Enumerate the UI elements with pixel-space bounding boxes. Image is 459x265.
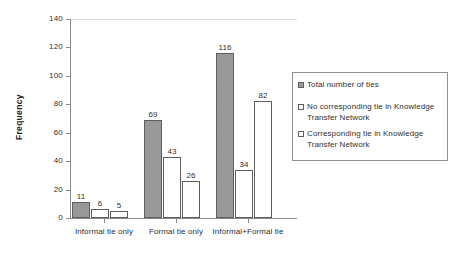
chart-legend: Total number of ties No corresponding ti… — [292, 72, 448, 161]
bar-value-label: 11 — [77, 192, 85, 203]
y-axis-tick-label: 60 — [37, 129, 63, 137]
bar: 5 — [110, 211, 128, 218]
bar-value-label: 6 — [98, 199, 102, 210]
bar-value-label: 69 — [149, 110, 158, 121]
bar: 82 — [254, 101, 272, 218]
legend-swatch-icon — [298, 104, 304, 110]
bar-chart: Frequency 020406080100120140 11691166433… — [0, 0, 459, 265]
y-axis-tick-label: 120 — [37, 43, 63, 51]
bar-value-label: 82 — [259, 91, 268, 102]
bar-value-label: 5 — [117, 201, 121, 212]
legend-swatch-icon — [298, 82, 304, 88]
legend-entry-no-corresponding-tie: No corresponding tie in Knowledge Transf… — [298, 102, 447, 123]
bar-value-label: 26 — [187, 171, 196, 182]
y-axis-tick-label: 40 — [37, 157, 63, 165]
y-axis-tick-label: 100 — [37, 72, 63, 80]
x-axis-tick — [104, 219, 105, 223]
bar: 69 — [144, 120, 162, 218]
legend-swatch-icon — [298, 131, 304, 137]
bar-value-label: 116 — [219, 43, 232, 54]
legend-entry-total-ties: Total number of ties — [298, 80, 447, 91]
bar: 11 — [72, 202, 90, 218]
x-axis-tick — [176, 219, 177, 223]
bar: 6 — [91, 209, 109, 218]
bar: 34 — [235, 170, 253, 218]
y-axis-tick-label: 20 — [37, 186, 63, 194]
y-axis-tick-label: 80 — [37, 100, 63, 108]
y-axis-title-label: Frequency — [14, 94, 24, 140]
bar-value-label: 34 — [240, 160, 249, 171]
plot-area: 11691166433452682 — [70, 19, 296, 218]
bar: 43 — [163, 157, 181, 218]
y-axis-tick-label: 0 — [37, 214, 63, 222]
legend-label: Corresponding tie in Knowledge Transfer … — [307, 129, 447, 150]
bar: 26 — [182, 181, 200, 218]
y-axis-tick-label: 140 — [37, 15, 63, 23]
legend-entry-corresponding-tie: Corresponding tie in Knowledge Transfer … — [298, 129, 447, 150]
x-axis-category-label: Informal+Formal tie — [206, 227, 290, 237]
bar-value-label: 43 — [168, 147, 177, 158]
legend-label: No corresponding tie in Knowledge Transf… — [307, 102, 447, 123]
x-axis-tick — [248, 219, 249, 223]
legend-label: Total number of ties — [307, 80, 447, 91]
bar: 116 — [216, 53, 234, 218]
